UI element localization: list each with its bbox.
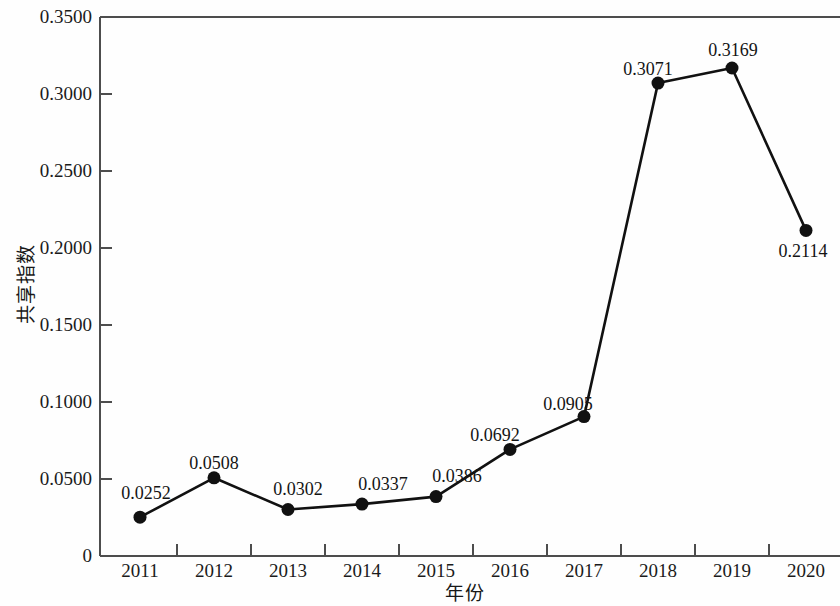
y-axis-ticks	[100, 94, 112, 479]
data-point-marker	[356, 498, 369, 511]
point-value-label: 0.0337	[358, 474, 408, 495]
point-value-label: 0.0905	[543, 394, 593, 415]
point-value-label: 0.0692	[470, 425, 520, 446]
point-value-label: 0.3169	[708, 40, 758, 61]
x-axis-ticks	[177, 544, 769, 556]
point-value-label: 0.3071	[623, 59, 673, 80]
data-point-marker	[134, 511, 147, 524]
data-point-marker	[726, 62, 739, 75]
point-value-label: 0.0252	[121, 483, 171, 504]
chart-figure: 共享指数 0.3500 0.3000 0.2500 0.2000 0.1500 …	[0, 0, 840, 606]
point-value-label: 0.2114	[779, 241, 828, 262]
data-series-line	[140, 68, 806, 517]
point-value-label: 0.0386	[432, 466, 482, 487]
point-value-label: 0.0302	[273, 479, 323, 500]
point-value-label: 0.0508	[189, 453, 239, 474]
data-point-marker	[430, 490, 443, 503]
data-point-marker	[282, 503, 295, 516]
data-point-marker	[800, 224, 813, 237]
plot-area	[0, 0, 840, 606]
